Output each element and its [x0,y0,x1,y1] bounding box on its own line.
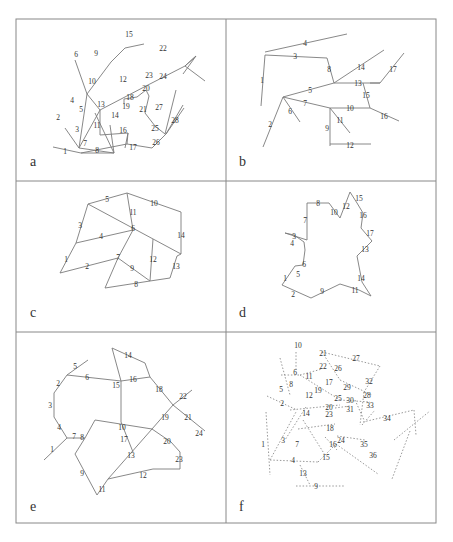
edge-number-label: 3 [75,125,79,134]
edge-number-label: 20 [163,437,171,446]
edge-number-label: 29 [343,383,351,392]
graph-edge [263,97,283,147]
edge-number-label: 6 [302,260,306,269]
panel-d: 1234567891011121314151617d [239,192,374,320]
graph-edge [145,363,150,377]
edge-number-label: 17 [120,435,128,444]
edge-number-label: 23 [145,71,153,80]
edge-number-label: 4 [99,232,103,241]
graph-edge [127,133,128,144]
edge-number-label: 13 [354,79,362,88]
graph-edge [183,56,196,74]
edge-number-label: 5 [79,105,83,114]
edge-number-label: 33 [366,401,374,410]
edge-number-label: 3 [78,221,82,230]
graph-edge [75,60,87,94]
graph-edge [85,420,95,438]
edge-number-label: 10 [88,77,96,86]
graph-edge [44,438,67,460]
edge-number-label: 8 [95,146,99,155]
edge-number-label: 12 [149,255,157,264]
edge-number-label: 9 [320,287,324,296]
edge-number-label: 2 [56,379,60,388]
panel-a: 1234567891011121314151617181920212223242… [30,30,205,169]
edge-number-label: 11 [351,286,358,295]
edge-number-label: 27 [155,103,163,112]
graph-edge [105,281,150,288]
edge-number-label: 2 [280,399,284,408]
edge-number-label: 14 [302,409,310,418]
graph-edge [185,66,205,81]
graph-edge [303,420,325,455]
graph-edge [118,258,150,281]
edge-number-label: 27 [352,354,360,363]
edge-number-label: 15 [125,30,133,39]
edge-number-label: 28 [363,391,371,400]
edge-number-label: 7 [116,253,120,262]
graph-edge [177,254,181,256]
figure: 1234567891011121314151617181920212223242… [0,0,453,542]
edge-number-label: 5 [105,195,109,204]
graph-edge [171,442,180,452]
edge-number-label: 13 [299,469,307,478]
edge-number-label: 17 [389,65,397,74]
edge-number-label: 9 [314,482,318,491]
edge-number-label: 8 [134,280,138,289]
edge-number-label: 22 [179,392,187,401]
edge-number-label: 15 [112,381,120,390]
edge-number-label: 16 [119,126,127,135]
edge-number-label: 17 [366,229,374,238]
edge-number-label: 4 [290,239,294,248]
edge-number-label: 26 [152,138,160,147]
edge-number-label: 35 [360,440,368,449]
graph-edge [285,233,307,240]
edge-number-label: 5 [296,270,300,279]
edge-number-label: 12 [342,202,350,211]
edge-number-label: 19 [122,102,130,111]
edge-number-label: 10 [118,423,126,432]
edge-number-label: 23 [175,455,183,464]
edge-number-label: 11 [336,116,343,125]
edge-number-label: 16 [329,440,337,449]
graph-edge [392,431,410,479]
graph-edge [311,284,340,298]
edge-number-label: 21 [184,413,192,422]
edge-number-label: 3 [281,436,285,445]
panel-letter: d [239,305,246,320]
edge-number-label: 7 [295,440,299,449]
edge-number-label: 1 [64,255,68,264]
edge-number-label: 9 [130,264,134,273]
graph-edge [75,454,97,495]
edge-number-label: 10 [330,208,338,217]
edge-number-label: 21 [319,349,327,358]
edge-number-label: 4 [70,96,74,105]
edge-number-label: 22 [319,362,327,371]
edge-number-label: 19 [161,413,169,422]
edge-number-label: 9 [80,469,84,478]
edge-number-label: 14 [124,351,132,360]
edge-number-label: 31 [346,405,354,414]
edge-number-label: 2 [291,290,295,299]
graph-edge [60,258,118,273]
edge-number-label: 10 [294,341,302,350]
edge-number-label: 7 [72,432,76,441]
edge-number-label: 3 [48,401,52,410]
edge-number-label: 7 [303,99,307,108]
edge-number-label: 8 [80,433,84,442]
graph-edge [282,285,311,298]
graph-edge [112,348,121,381]
edge-number-label: 25 [334,394,342,403]
edge-number-label: 5 [308,86,312,95]
panel-a-labels: 1234567891011121314151617181920212223242… [56,30,179,156]
edge-number-label: 1 [63,147,67,156]
edge-number-label: 13 [127,451,135,460]
graph-edge [105,258,118,288]
edge-number-label: 13 [361,245,369,254]
edge-number-label: 2 [85,262,89,271]
edge-number-label: 12 [305,391,313,400]
edge-number-label: 1 [283,274,287,283]
panel-f-segments [266,352,430,486]
edge-number-label: 10 [150,199,158,208]
edge-number-label: 32 [365,377,373,386]
panel-c-segments [60,193,181,288]
